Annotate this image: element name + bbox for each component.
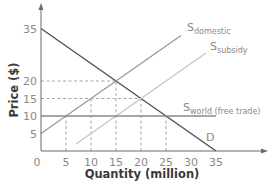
axes xyxy=(39,3,269,154)
y-axis-arrow-icon xyxy=(39,3,44,10)
x-tick-label: 0 xyxy=(34,156,41,169)
y-axis-title: Price ($) xyxy=(7,62,21,117)
curves xyxy=(41,29,216,152)
curve-label: D xyxy=(206,131,214,144)
y-tick-label: 5 xyxy=(30,128,37,141)
y-tick-label: 20 xyxy=(23,75,37,88)
x-tick-label: 35 xyxy=(209,156,223,169)
curve-d xyxy=(41,29,216,152)
y-tick-label: 35 xyxy=(23,23,37,36)
x-axis-arrow-icon xyxy=(261,149,268,154)
curve-label: Ssubsidy xyxy=(210,40,248,55)
x-axis-title: Quantity (million) xyxy=(85,167,200,181)
y-tick-label: 10 xyxy=(23,110,37,123)
x-tick-label: 5 xyxy=(63,156,70,169)
curve-labels: DSdomesticSsubsidySworld (free trade) xyxy=(183,21,260,144)
curve-label: Sworld (free trade) xyxy=(183,101,260,116)
curve-label: Sdomestic xyxy=(187,21,231,36)
tick-labels: 05101520253035510152035 xyxy=(23,23,223,170)
y-tick-label: 15 xyxy=(23,93,37,106)
supply-demand-chart: 05101520253035510152035 DSdomesticSsubsi… xyxy=(0,0,274,195)
